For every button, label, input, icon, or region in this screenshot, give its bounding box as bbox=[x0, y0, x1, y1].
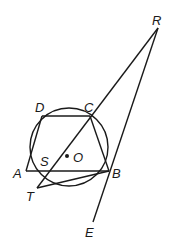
label-a: A bbox=[12, 166, 22, 181]
label-o: O bbox=[73, 150, 83, 165]
tangent-re bbox=[93, 28, 158, 222]
label-e: E bbox=[85, 225, 94, 240]
label-s: S bbox=[40, 154, 49, 169]
label-b: B bbox=[112, 166, 121, 181]
label-c: C bbox=[84, 100, 94, 115]
label-r: R bbox=[152, 13, 161, 28]
segment-cb bbox=[90, 116, 109, 171]
center-point-o bbox=[65, 154, 69, 158]
secant-rt bbox=[37, 28, 158, 188]
label-d: D bbox=[35, 100, 44, 115]
geometry-diagram: R C D O S A B T E bbox=[0, 0, 173, 251]
label-t: T bbox=[26, 189, 35, 204]
